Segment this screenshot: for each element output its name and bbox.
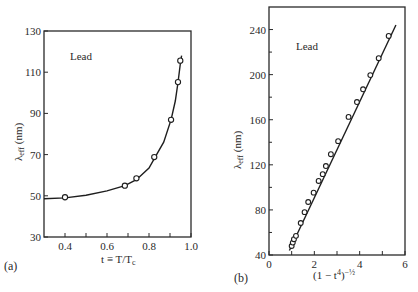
y-tick-label: 160 (250, 114, 267, 126)
x-tick-label: 4 (357, 258, 363, 270)
panel-a-annotation: Lead (70, 50, 92, 62)
data-point (175, 79, 180, 84)
data-point (320, 172, 325, 177)
data-point (178, 58, 183, 63)
x-tick-label: 0.8 (142, 240, 156, 252)
data-point (336, 139, 341, 144)
panel-a-plot-frame (44, 31, 191, 237)
chart-figure: 0.40.60.81.030507090110130 Lead (a) t ≡ … (0, 0, 418, 292)
panel-b-x-axis-label-main: (1 − t (313, 269, 337, 282)
panel-b-y-axis-label-sub: eff (236, 155, 245, 164)
data-point (361, 87, 366, 92)
y-tick-label: 90 (30, 107, 42, 119)
panel-b-x-axis-label-exp: −½ (345, 268, 356, 277)
panel-a-x-axis-label: t ≡ T/Tc (101, 253, 136, 267)
panel-b-label: (b) (234, 271, 248, 285)
panel-b-plot-frame (269, 7, 405, 255)
data-point (311, 190, 316, 195)
data-point (346, 115, 351, 120)
data-point (152, 154, 157, 159)
panel-b: 02464080120160200240 Lead (b) (1 − t4)−½… (231, 7, 408, 285)
data-point (386, 34, 391, 39)
panel-a-tick-labels: 0.40.60.81.030507090110130 (25, 25, 199, 252)
x-tick-label: 0.6 (100, 240, 114, 252)
panel-a-ticks (44, 31, 191, 237)
data-point (323, 164, 328, 169)
data-point (368, 73, 373, 78)
panel-a-y-axis-label-sub: eff (17, 147, 26, 156)
data-point (298, 221, 303, 226)
y-tick-label: 70 (30, 149, 42, 161)
panel-a-label: (a) (4, 259, 17, 273)
panel-a-fit-curve (44, 56, 182, 199)
panel-b-data-points (289, 34, 391, 249)
data-point (306, 200, 311, 205)
data-point (294, 233, 299, 238)
y-tick-label: 110 (25, 66, 42, 78)
panel-b-tick-labels: 02464080120160200240 (250, 24, 409, 270)
x-tick-label: 0 (266, 258, 272, 270)
y-tick-label: 80 (255, 204, 267, 216)
y-tick-label: 40 (255, 249, 267, 261)
data-point (316, 179, 321, 184)
y-tick-label: 130 (25, 25, 42, 37)
panel-a-y-axis-label-unit: (nm) (12, 123, 25, 147)
data-point (122, 183, 127, 188)
data-point (328, 152, 333, 157)
panel-b-annotation: Lead (296, 40, 318, 52)
panel-b-x-axis-label: (1 − t4)−½ (313, 268, 355, 282)
x-tick-label: 0.4 (58, 240, 72, 252)
data-point (134, 176, 139, 181)
y-tick-label: 240 (250, 24, 267, 36)
data-point (62, 195, 67, 200)
panel-a: 0.40.60.81.030507090110130 Lead (a) t ≡ … (4, 25, 198, 273)
panel-a-x-axis-label-sub: c (132, 258, 136, 267)
data-point (355, 100, 360, 105)
y-tick-label: 120 (250, 159, 267, 171)
x-tick-label: 6 (402, 258, 408, 270)
panel-b-y-axis-label-unit: (nm) (231, 131, 244, 155)
panel-a-data-points (62, 58, 182, 200)
data-point (302, 210, 307, 215)
y-tick-label: 200 (250, 69, 267, 81)
panel-a-x-axis-label-main: t ≡ T/T (101, 253, 132, 265)
data-point (376, 56, 381, 61)
data-point (168, 117, 173, 122)
x-tick-label: 1.0 (184, 240, 198, 252)
panel-b-y-axis-label: λeff (nm) (231, 131, 245, 170)
panel-a-y-axis-label: λeff (nm) (12, 123, 26, 162)
y-tick-label: 50 (30, 190, 42, 202)
y-tick-label: 30 (30, 231, 42, 243)
